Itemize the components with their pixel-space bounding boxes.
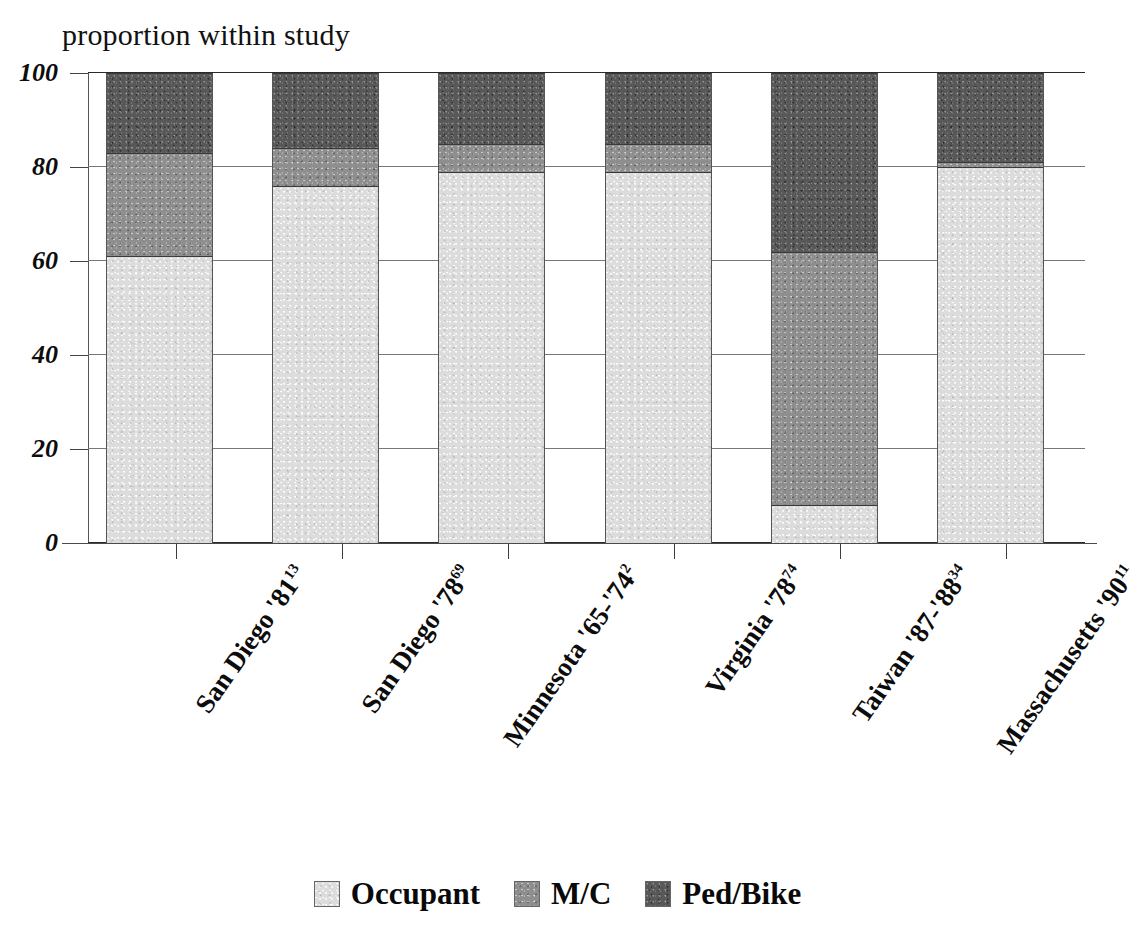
- x-axis-line: [62, 543, 1097, 544]
- legend-swatch-pedbike-icon: [645, 881, 671, 907]
- x-axis-label-3: Virginia '7874: [699, 560, 811, 702]
- bar-segment-occupant: [438, 172, 545, 543]
- bar-3: [605, 73, 712, 543]
- x-axis-label-4: Taiwan '87-'8834: [847, 560, 978, 729]
- bar-segment-mc: [438, 144, 545, 172]
- legend-item-occupant[interactable]: Occupant: [314, 876, 480, 912]
- y-tick-mark-20: [70, 449, 88, 450]
- bar-0: [106, 73, 213, 543]
- legend-label: M/C: [551, 876, 611, 912]
- bar-segment-occupant: [937, 167, 1044, 543]
- legend-swatch-mc-icon: [514, 881, 540, 907]
- x-axis-label-0: San Diego '8113: [189, 560, 313, 719]
- y-tick-mark-80: [70, 167, 88, 168]
- y-tick-label-20: 20: [32, 434, 58, 464]
- x-label-text: San Diego '81: [189, 572, 304, 718]
- x-tick-mark-0: [176, 544, 177, 559]
- bar-segment-mc: [771, 252, 878, 506]
- gridline-40: [88, 354, 1085, 355]
- y-axis-tick-labels: 020406080100: [0, 73, 58, 544]
- x-label-text: Virginia '78: [699, 572, 802, 701]
- x-axis-label-2: Minnesota '65-'742: [497, 560, 645, 753]
- bar-segment-pedbike: [106, 73, 213, 153]
- bar-1: [272, 73, 379, 543]
- bar-segment-pedbike: [771, 73, 878, 252]
- x-tick-mark-2: [508, 544, 509, 559]
- gridline-80: [88, 166, 1085, 167]
- legend-item-mc[interactable]: M/C: [514, 876, 611, 912]
- x-tick-mark-4: [840, 544, 841, 559]
- bar-segment-mc: [605, 144, 712, 172]
- x-label-text: San Diego '78: [355, 572, 470, 718]
- x-label-text: Massachusetts '90: [991, 571, 1134, 758]
- legend-label: Occupant: [351, 876, 480, 912]
- y-tick-label-0: 0: [45, 528, 58, 558]
- x-tick-mark-1: [342, 544, 343, 559]
- y-tick-label-100: 100: [19, 58, 58, 88]
- legend-item-pedbike[interactable]: Ped/Bike: [645, 876, 801, 912]
- legend-swatch-occupant-icon: [314, 881, 340, 907]
- bar-2: [438, 73, 545, 543]
- gridline-60: [88, 260, 1085, 261]
- bar-segment-pedbike: [438, 73, 545, 144]
- gridline-20: [88, 448, 1085, 449]
- y-tick-label-40: 40: [32, 340, 58, 370]
- bar-segment-mc: [272, 148, 379, 186]
- bar-segment-pedbike: [937, 73, 1044, 162]
- y-tick-mark-40: [70, 355, 88, 356]
- bar-5: [937, 73, 1044, 543]
- bar-segment-pedbike: [605, 73, 712, 144]
- y-tick-mark-100: [70, 73, 88, 74]
- bar-segment-occupant: [272, 186, 379, 543]
- bar-segment-occupant: [605, 172, 712, 543]
- x-tick-mark-5: [1006, 544, 1007, 559]
- plot-area: [88, 73, 1085, 543]
- x-label-text: Taiwan '87-'88: [847, 572, 969, 728]
- y-tick-label-80: 80: [32, 152, 58, 182]
- y-tick-mark-60: [70, 261, 88, 262]
- bar-segment-mc: [106, 153, 213, 256]
- y-tick-label-60: 60: [32, 246, 58, 276]
- bar-segment-mc: [937, 162, 1044, 167]
- chart-legend: OccupantM/CPed/Bike: [0, 876, 1115, 912]
- x-tick-mark-3: [674, 544, 675, 559]
- chart-title: proportion within study: [62, 18, 350, 52]
- bar-segment-pedbike: [272, 73, 379, 148]
- bar-4: [771, 73, 878, 543]
- legend-label: Ped/Bike: [682, 876, 801, 912]
- bar-segment-occupant: [771, 505, 878, 543]
- x-axis-label-5: Massachusetts '9011: [991, 560, 1134, 759]
- gridline-100: [88, 72, 1085, 73]
- bar-segment-occupant: [106, 256, 213, 543]
- x-axis-label-1: San Diego '7869: [355, 560, 479, 719]
- x-label-text: Minnesota '65-'74: [497, 566, 640, 752]
